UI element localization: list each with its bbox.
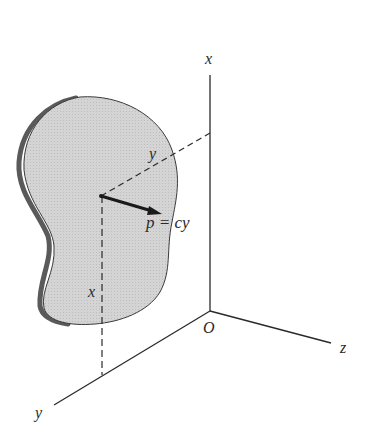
z-axis-label: z: [339, 339, 347, 356]
origin-label: O: [203, 319, 215, 336]
z-axis: [210, 311, 331, 343]
y-axis-label: y: [33, 404, 43, 422]
pressure-label: p = cy: [145, 213, 190, 232]
x-dimension-label: x: [87, 283, 95, 300]
diagram-svg: x z y O y x p = cy: [0, 0, 378, 443]
y-axis: [54, 311, 210, 405]
x-axis-label: x: [204, 50, 212, 67]
y-dimension-label: y: [147, 145, 157, 163]
diagram-canvas: x z y O y x p = cy: [0, 0, 378, 443]
